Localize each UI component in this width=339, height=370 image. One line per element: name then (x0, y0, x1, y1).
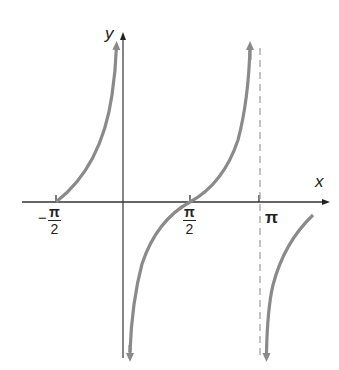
tick-label-half-pi-den: 2 (183, 221, 196, 236)
tick-label-neg-half-pi-den: 2 (48, 221, 61, 236)
tick-label-half-pi: π 2 (183, 205, 196, 236)
curve-branch-1 (56, 46, 117, 202)
tick-label-pi: π (265, 208, 278, 228)
cotangent-graph (0, 0, 339, 370)
tick-label-neg-half-pi-num: π (48, 205, 61, 221)
neg-sign: − (38, 209, 47, 226)
tick-label-neg-half-pi: π 2 (48, 205, 61, 236)
tick-label-half-pi-num: π (183, 205, 196, 221)
x-axis-label: x (315, 172, 324, 192)
curve-branch-3 (267, 215, 314, 352)
y-axis-label: y (105, 24, 114, 44)
